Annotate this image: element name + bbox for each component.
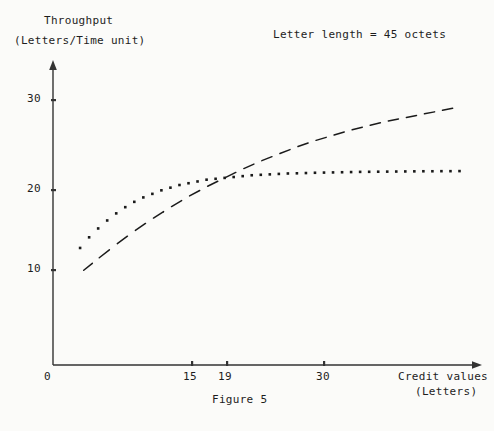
series-dotted-curve — [79, 170, 461, 249]
y-axis — [49, 60, 57, 365]
series-dashed-curve — [84, 108, 453, 270]
y-axis-title-line2: (Letters/Time unit) — [14, 34, 146, 47]
y-tick-label-20: 20 — [27, 182, 41, 195]
figure-5-chart: Throughput (Letters/Time unit) Letter le… — [0, 0, 494, 431]
y-axis-title-line1: Throughput — [44, 14, 113, 27]
x-axis-title-line1: Credit values — [398, 370, 488, 383]
chart-canvas — [0, 0, 494, 431]
data-series-layer — [79, 108, 461, 270]
chart-annotation-letter-length: Letter length = 45 octets — [273, 28, 446, 41]
x-axis — [53, 361, 482, 369]
x-tick-label-30: 30 — [316, 370, 330, 383]
figure-caption: Figure 5 — [212, 393, 267, 406]
y-tick-label-10: 10 — [27, 262, 41, 275]
x-axis-title-line2: (Letters) — [415, 385, 477, 398]
y-tick-label-30: 30 — [27, 92, 41, 105]
x-tick-label-19: 19 — [218, 370, 232, 383]
x-tick-label-0: 0 — [44, 370, 51, 383]
x-tick-label-15: 15 — [183, 370, 197, 383]
